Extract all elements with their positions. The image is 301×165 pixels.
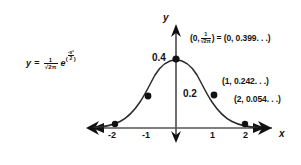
data-point-marker	[112, 121, 118, 127]
equation-exponent: (-x²2)	[66, 56, 76, 62]
x-tick-label-neg1: -1	[142, 130, 150, 140]
data-point-marker	[172, 55, 179, 62]
peak-annotation-fraction: 1√2π	[200, 32, 212, 45]
y-axis-label: y	[163, 12, 169, 23]
normal-curve-figure: y=1√2πe(-x²2) y x -2 -1 1 2 0.4 0.2 (0,1…	[0, 0, 301, 165]
x-axis-label: x	[279, 128, 285, 139]
peak-point-annotation: (0,1√2π) = (0, 0.399. . .)	[190, 32, 270, 45]
y-tick-label-02: 0.2	[183, 88, 197, 99]
x-tick-label-pos2: 2	[243, 130, 248, 140]
equation-label: y=1√2πe(-x²2)	[26, 50, 76, 71]
x-tick-label-neg2: -2	[108, 130, 116, 140]
x-tick-label-pos1: 1	[210, 130, 215, 140]
equation-coefficient: 1√2π	[43, 57, 59, 71]
y-tick-label-04: 0.4	[152, 52, 166, 63]
point-one-annotation: (1, 0.242. . .)	[222, 76, 269, 86]
data-point-marker	[145, 93, 152, 100]
point-two-annotation: (2, 0.054. . .)	[234, 94, 281, 104]
equation-exp-base: e	[59, 58, 66, 68]
data-point-marker	[211, 92, 218, 99]
equation-equals: =	[31, 58, 42, 68]
data-point-marker	[242, 121, 248, 127]
